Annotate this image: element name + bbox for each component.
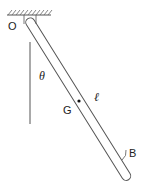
center-of-mass-label: G bbox=[63, 104, 72, 116]
center-of-mass-dot bbox=[77, 99, 80, 102]
pivot-label: O bbox=[8, 20, 17, 32]
end-leader-line bbox=[122, 150, 126, 160]
end-label: B bbox=[129, 147, 136, 159]
rod bbox=[24, 16, 132, 182]
angle-label: θ bbox=[39, 69, 45, 83]
length-label: ℓ bbox=[94, 90, 99, 104]
pendulum-diagram: O θ G ℓ B bbox=[0, 0, 149, 193]
